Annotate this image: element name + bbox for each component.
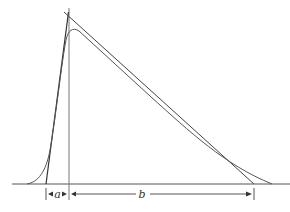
dimension-b: b <box>71 188 254 201</box>
label-b: b <box>138 188 145 201</box>
pulse-curve <box>27 29 272 184</box>
pulse-triangle-diagram: a b <box>0 0 290 212</box>
label-a: a <box>54 188 61 201</box>
dimension-a: a <box>46 188 67 201</box>
